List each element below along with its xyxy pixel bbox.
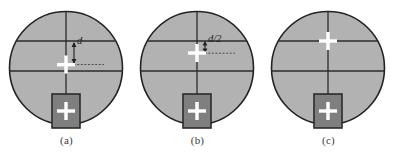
panel-b: (b) [131,0,264,160]
panel-c: (c) [262,0,395,160]
panel-b-caption: (b) [131,134,264,146]
reference-block [183,94,211,128]
panel-a: (a) [0,0,133,160]
figure-three-alignment-views: (a) [0,0,399,160]
reference-block [52,94,80,128]
reference-block [314,94,342,128]
panel-a-caption: (a) [0,134,133,146]
dimension-label-d-half: d/2 [208,33,221,44]
panel-c-caption: (c) [262,134,395,146]
dimension-label-d: d [77,35,82,46]
panel-c-graphic [262,0,395,134]
panel-b-graphic [131,0,264,134]
panel-a-graphic [0,0,133,134]
